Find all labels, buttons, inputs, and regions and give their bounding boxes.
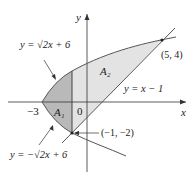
y-axis-label: y	[76, 12, 81, 23]
x-axis-label: x	[181, 107, 186, 118]
pointer-lower-curve	[39, 127, 52, 145]
lower-curve-label: y = −√2x + 6	[10, 150, 67, 161]
upper-curve-label: y = √2x + 6	[20, 40, 70, 51]
point-minus1-minus2	[70, 131, 73, 134]
point-bottom-label: (−1, −2)	[101, 128, 134, 138]
tick-minus-3-label: −3	[27, 106, 39, 117]
pointer-upper-arrow-icon	[52, 74, 57, 80]
origin-label: 0	[77, 106, 83, 117]
y-axis-arrow-icon	[85, 14, 90, 20]
x-axis-arrow-icon	[180, 100, 186, 105]
point-5-4	[160, 38, 163, 41]
region-a1-label: A₁	[54, 107, 65, 118]
region-a2-label: A₂	[100, 66, 111, 77]
area-between-curves-diagram: y x 0 −3 y = √2x + 6 y = −√2x + 6 y = x …	[0, 0, 194, 176]
line-label: y = x − 1	[124, 84, 163, 95]
point-top-label: (5, 4)	[161, 50, 183, 60]
